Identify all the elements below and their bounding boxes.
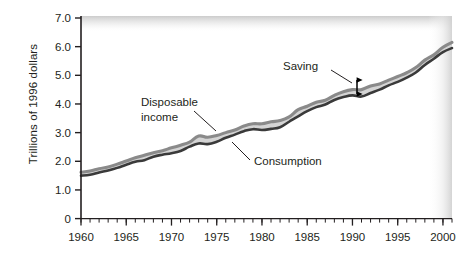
- svg-text:1960: 1960: [68, 231, 94, 243]
- svg-text:5.0: 5.0: [55, 69, 71, 81]
- chart-figure: Trillions of 1996 dollars: [0, 0, 474, 266]
- annotation-disposable-income-line2: income: [141, 111, 178, 123]
- svg-text:1970: 1970: [159, 231, 185, 243]
- svg-text:1980: 1980: [249, 231, 275, 243]
- svg-text:1995: 1995: [385, 231, 411, 243]
- svg-text:3.0: 3.0: [55, 127, 71, 139]
- annotation-saving: Saving: [283, 60, 318, 72]
- plot-top-shading: [81, 16, 452, 32]
- svg-text:1985: 1985: [294, 231, 320, 243]
- svg-text:7.0: 7.0: [55, 12, 71, 24]
- chart-plot-area: 01.02.03.04.05.06.07.0 19601965197019751…: [0, 0, 474, 266]
- y-axis-ticks: [75, 18, 81, 219]
- plot-background: [81, 18, 452, 218]
- svg-text:6.0: 6.0: [55, 41, 71, 53]
- svg-text:1975: 1975: [204, 231, 230, 243]
- svg-text:0: 0: [65, 213, 71, 225]
- svg-text:2000: 2000: [430, 231, 456, 243]
- svg-text:1965: 1965: [113, 231, 139, 243]
- annotation-disposable-income-line1: Disposable: [141, 96, 198, 108]
- annotation-consumption: Consumption: [254, 155, 322, 167]
- y-axis-tick-labels: 01.02.03.04.05.06.07.0: [55, 12, 71, 225]
- svg-text:2.0: 2.0: [55, 155, 71, 167]
- svg-text:4.0: 4.0: [55, 98, 71, 110]
- svg-text:1.0: 1.0: [55, 184, 71, 196]
- svg-text:1990: 1990: [340, 231, 366, 243]
- x-axis-tick-labels: 196019651970197519801985199019952000: [68, 231, 456, 243]
